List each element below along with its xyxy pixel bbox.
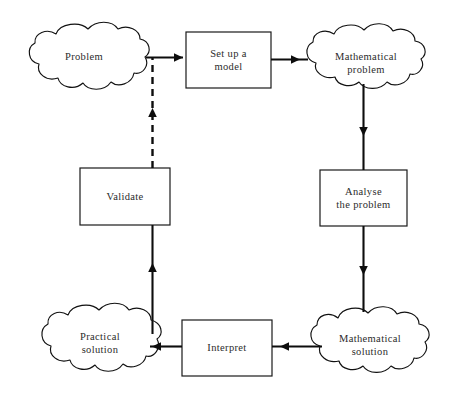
box-shape-analyse-the-problem [320, 170, 407, 226]
arrow-head-mathematical-problem-to-analyse [359, 127, 368, 136]
modelling-cycle-diagram: Problem Set up a model Mathematical prob… [0, 0, 453, 394]
arrow-head-problem-to-set-up-a-model [174, 53, 183, 62]
cloud-shape-practical-solution [42, 303, 161, 371]
arrow-head-practical-solution-to-validate [148, 263, 157, 272]
arrow-head-set-up-a-model-to-mathematical-problem [291, 55, 300, 64]
cloud-shape-mathematical-solution [311, 307, 429, 373]
arrow-head-analyse-to-mathematical-solution [359, 266, 368, 275]
cloud-shape-mathematical-problem [307, 24, 425, 89]
box-shape-interpret [182, 320, 272, 376]
box-shape-validate [80, 168, 170, 225]
cloud-shape-problem [29, 22, 149, 89]
arrow-head-mathematical-solution-to-interpret [280, 342, 289, 351]
box-shape-set-up-a-model [186, 32, 271, 88]
arrow-head-validate-to-problem [148, 108, 157, 117]
diagram-canvas [0, 0, 453, 394]
